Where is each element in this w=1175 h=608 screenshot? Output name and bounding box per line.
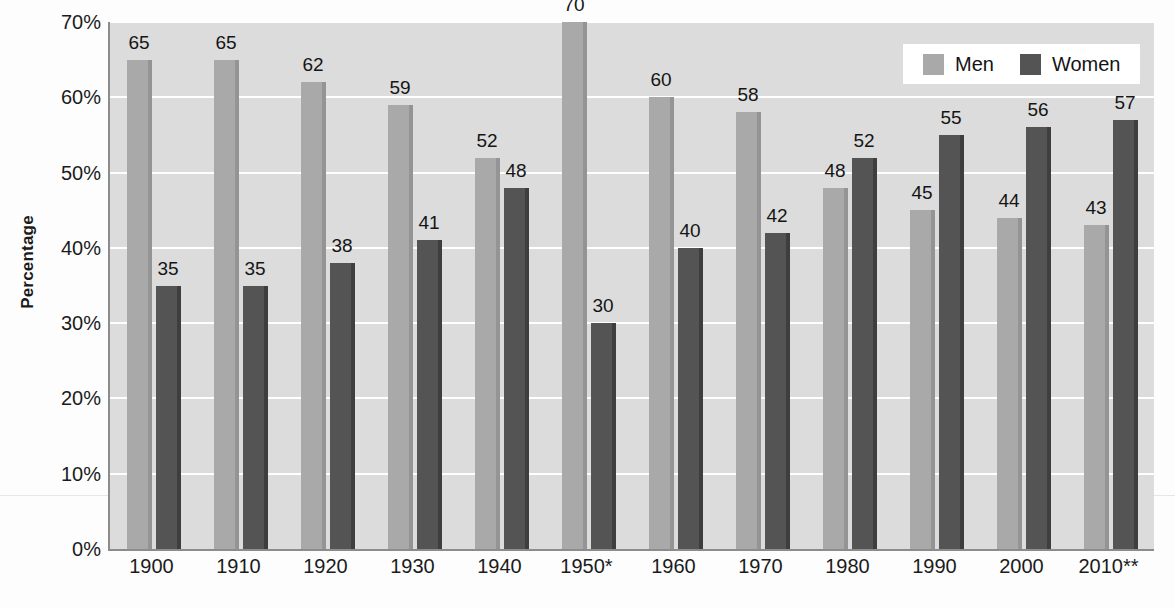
bar-women[interactable]: 55 — [939, 135, 964, 549]
legend-label: Men — [955, 53, 994, 76]
bar-men[interactable]: 43 — [1084, 225, 1109, 549]
legend-swatch-icon — [1020, 54, 1041, 75]
bar-group: 6238 — [301, 22, 355, 549]
bar-value-label: 65 — [128, 32, 149, 54]
bar-women[interactable]: 40 — [678, 248, 703, 549]
bar-value-label: 65 — [215, 32, 236, 54]
bar-face — [997, 218, 1018, 549]
bar-value-label: 35 — [157, 258, 178, 280]
bar-side-shade — [873, 158, 877, 549]
bar-group: 6535 — [214, 22, 268, 549]
bar-side-shade — [960, 135, 964, 549]
bar-face — [330, 263, 351, 549]
bar-side-shade — [264, 286, 268, 550]
bar-women[interactable]: 38 — [330, 263, 355, 549]
bar-men[interactable]: 70 — [562, 22, 587, 549]
bar-face — [562, 22, 583, 549]
bar-women[interactable]: 48 — [504, 188, 529, 549]
bar-side-shade — [525, 188, 529, 549]
legend-item-men[interactable]: Men — [923, 53, 994, 76]
bar-value-label: 52 — [476, 130, 497, 152]
bar-side-shade — [351, 263, 355, 549]
bar-value-label: 41 — [418, 212, 439, 234]
bar-men[interactable]: 45 — [910, 210, 935, 549]
bar-side-shade — [583, 22, 587, 549]
y-axis-tick-label: 70% — [0, 11, 101, 34]
x-axis-tick-label: 1970 — [738, 555, 783, 578]
bar-side-shade — [1105, 225, 1109, 549]
bar-side-shade — [844, 188, 848, 549]
bar-side-shade — [1018, 218, 1022, 549]
bar-men[interactable]: 62 — [301, 82, 326, 549]
bar-women[interactable]: 56 — [1026, 127, 1051, 549]
legend-item-women[interactable]: Women — [1020, 53, 1121, 76]
bar-men[interactable]: 65 — [127, 60, 152, 549]
bar-men[interactable]: 44 — [997, 218, 1022, 549]
bar-face — [852, 158, 873, 549]
bar-men[interactable]: 52 — [475, 158, 500, 549]
bar-value-label: 56 — [1027, 99, 1048, 121]
x-axis-tick-label: 1950* — [560, 555, 612, 578]
bar-value-label: 45 — [911, 182, 932, 204]
bar-face — [127, 60, 148, 549]
x-axis-tick-label: 1990 — [912, 555, 957, 578]
bar-women[interactable]: 52 — [852, 158, 877, 549]
bar-group: 5941 — [388, 22, 442, 549]
y-axis-tick-label: 30% — [0, 312, 101, 335]
bar-men[interactable]: 48 — [823, 188, 848, 549]
bar-face — [417, 240, 438, 549]
bar-women[interactable]: 42 — [765, 233, 790, 549]
bars-layer: 6535653562385941524870306040584248524555… — [110, 22, 1154, 549]
bar-women[interactable]: 35 — [156, 286, 181, 550]
chart-legend: MenWomen — [903, 44, 1140, 84]
x-axis-tick-label: 1910 — [216, 555, 261, 578]
bar-men[interactable]: 58 — [736, 112, 761, 549]
bar-side-shade — [148, 60, 152, 549]
x-axis-tick-label: 1920 — [303, 555, 348, 578]
bar-women[interactable]: 41 — [417, 240, 442, 549]
bar-group: 5842 — [736, 22, 790, 549]
bar-men[interactable]: 59 — [388, 105, 413, 549]
bar-men[interactable]: 60 — [649, 97, 674, 549]
bar-face — [214, 60, 235, 549]
bar-side-shade — [1047, 127, 1051, 549]
bar-group: 4357 — [1084, 22, 1138, 549]
bar-value-label: 58 — [737, 84, 758, 106]
y-axis-tick-label: 40% — [0, 236, 101, 259]
bar-side-shade — [757, 112, 761, 549]
bar-side-shade — [931, 210, 935, 549]
bar-face — [910, 210, 931, 549]
bar-side-shade — [1134, 120, 1138, 549]
x-axis-tick-label: 1940 — [477, 555, 522, 578]
bar-side-shade — [612, 323, 616, 549]
bar-value-label: 55 — [940, 107, 961, 129]
bar-value-label: 40 — [679, 220, 700, 242]
bar-side-shade — [322, 82, 326, 549]
bar-side-shade — [438, 240, 442, 549]
bar-group: 5248 — [475, 22, 529, 549]
bar-women[interactable]: 35 — [243, 286, 268, 550]
bar-face — [1026, 127, 1047, 549]
bar-group: 6535 — [127, 22, 181, 549]
bar-value-label: 52 — [853, 130, 874, 152]
bar-value-label: 48 — [824, 160, 845, 182]
bar-women[interactable]: 30 — [591, 323, 616, 549]
y-axis-tick-label: 20% — [0, 387, 101, 410]
bar-value-label: 57 — [1114, 92, 1135, 114]
bar-women[interactable]: 57 — [1113, 120, 1138, 549]
bar-group: 7030 — [562, 22, 616, 549]
bar-value-label: 38 — [331, 235, 352, 257]
bar-face — [823, 188, 844, 549]
bar-men[interactable]: 65 — [214, 60, 239, 549]
bar-face — [765, 233, 786, 549]
bar-value-label: 60 — [650, 69, 671, 91]
bar-group: 6040 — [649, 22, 703, 549]
bar-side-shade — [409, 105, 413, 549]
bar-face — [591, 323, 612, 549]
bar-group: 4852 — [823, 22, 877, 549]
bar-face — [1084, 225, 1105, 549]
x-axis-tick-label: 1930 — [390, 555, 435, 578]
bar-side-shade — [496, 158, 500, 549]
bar-face — [301, 82, 322, 549]
bar-face — [939, 135, 960, 549]
